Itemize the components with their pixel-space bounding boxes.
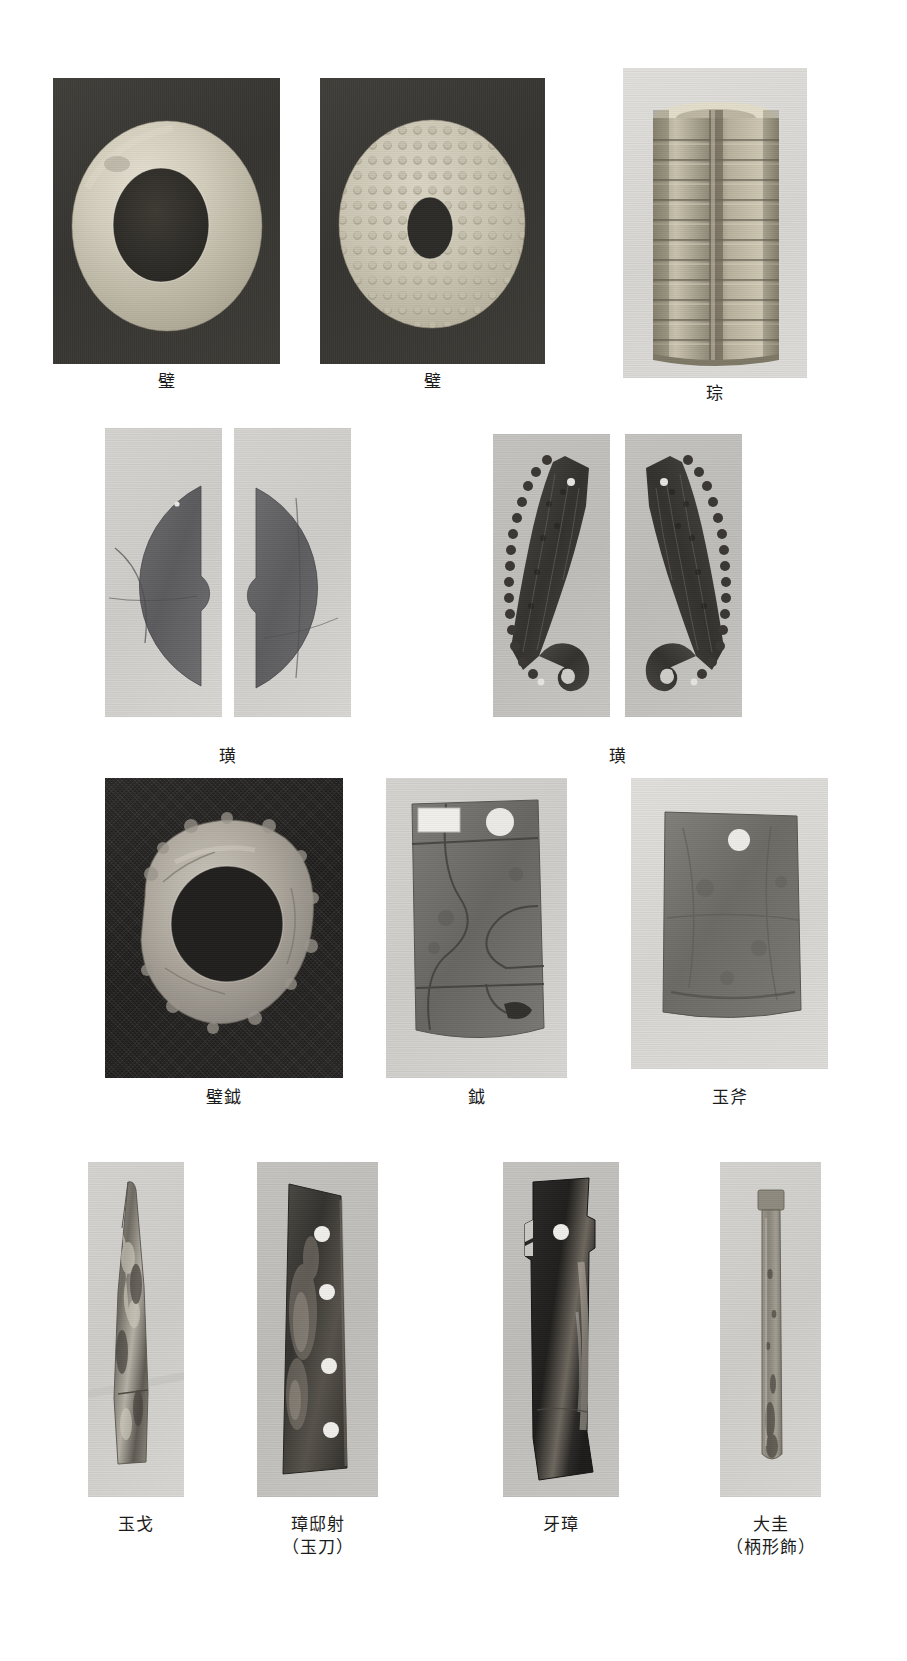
da-gui-illustration: [720, 1162, 821, 1497]
caption-ya-zhang-text: 牙璋: [543, 1514, 579, 1534]
figure-ya-zhang: [503, 1162, 619, 1497]
figure-cong: [623, 68, 807, 378]
figure-huang-a-left: [105, 428, 222, 717]
figure-huang-b-right: [625, 434, 742, 717]
caption-zhang-dishe: 璋邸射 （玉刀）: [257, 1513, 378, 1559]
caption-bi-bossed: 璧: [320, 370, 545, 393]
photo-bi-yue: [105, 778, 343, 1078]
photo-ya-zhang: [503, 1162, 619, 1497]
zhang-dishe-illustration: [257, 1162, 378, 1497]
caption-huang-a: 璜: [105, 745, 351, 768]
photo-cong: [623, 68, 807, 378]
caption-da-gui-text: 大圭: [753, 1514, 789, 1534]
caption-yu-fu: 玉斧: [631, 1086, 828, 1109]
caption-yue: 鉞: [386, 1086, 567, 1109]
caption-bi-plain-text: 璧: [158, 371, 176, 391]
jade-artifact-plate: 璧: [0, 0, 907, 1661]
figure-bi-plain: [53, 78, 280, 364]
bi-plain-illustration: [53, 78, 280, 364]
cong-illustration: [623, 68, 807, 378]
yu-ge-illustration: [88, 1162, 184, 1497]
huang-a-right-illustration: [234, 428, 351, 717]
caption-da-gui: 大圭 （柄形飾）: [720, 1513, 821, 1559]
photo-zhang-dishe: [257, 1162, 378, 1497]
photo-yue: [386, 778, 567, 1078]
yue-illustration: [386, 778, 567, 1078]
yu-fu-illustration: [631, 778, 828, 1069]
figure-zhang-dishe: [257, 1162, 378, 1497]
bi-yue-illustration: [105, 778, 343, 1078]
caption-bi-bossed-text: 璧: [424, 371, 442, 391]
photo-huang-b-left: [493, 434, 610, 717]
caption-da-gui-sub: （柄形飾）: [720, 1536, 821, 1559]
figure-yue: [386, 778, 567, 1078]
caption-huang-a-text: 璜: [219, 746, 237, 766]
caption-yu-ge: 玉戈: [88, 1513, 184, 1536]
caption-yue-text: 鉞: [468, 1087, 486, 1107]
photo-bi-plain: [53, 78, 280, 364]
bi-bossed-illustration: [320, 78, 545, 364]
photo-da-gui: [720, 1162, 821, 1497]
caption-bi-yue: 璧鉞: [105, 1086, 343, 1109]
caption-yu-ge-text: 玉戈: [118, 1514, 154, 1534]
photo-huang-a-right: [234, 428, 351, 717]
figure-bi-yue: [105, 778, 343, 1078]
ya-zhang-illustration: [503, 1162, 619, 1497]
caption-yu-fu-text: 玉斧: [712, 1087, 748, 1107]
figure-yu-fu: [631, 778, 828, 1069]
caption-zhang-dishe-text: 璋邸射: [291, 1514, 345, 1534]
caption-huang-b-text: 璜: [609, 746, 627, 766]
figure-huang-a-right: [234, 428, 351, 717]
caption-bi-yue-text: 璧鉞: [206, 1087, 242, 1107]
huang-b-right-illustration: [625, 434, 742, 717]
figure-huang-b-left: [493, 434, 610, 717]
caption-ya-zhang: 牙璋: [503, 1513, 619, 1536]
caption-cong-text: 琮: [706, 383, 724, 403]
huang-a-left-illustration: [105, 428, 222, 717]
photo-huang-b-right: [625, 434, 742, 717]
caption-zhang-dishe-sub: （玉刀）: [257, 1536, 378, 1559]
photo-huang-a-left: [105, 428, 222, 717]
figure-da-gui: [720, 1162, 821, 1497]
caption-bi-plain: 璧: [53, 370, 280, 393]
photo-yu-fu: [631, 778, 828, 1069]
huang-b-left-illustration: [493, 434, 610, 717]
photo-bi-bossed: [320, 78, 545, 364]
figure-bi-bossed: [320, 78, 545, 364]
figure-yu-ge: [88, 1162, 184, 1497]
caption-cong: 琮: [623, 382, 807, 405]
caption-huang-b: 璜: [493, 745, 742, 768]
photo-yu-ge: [88, 1162, 184, 1497]
